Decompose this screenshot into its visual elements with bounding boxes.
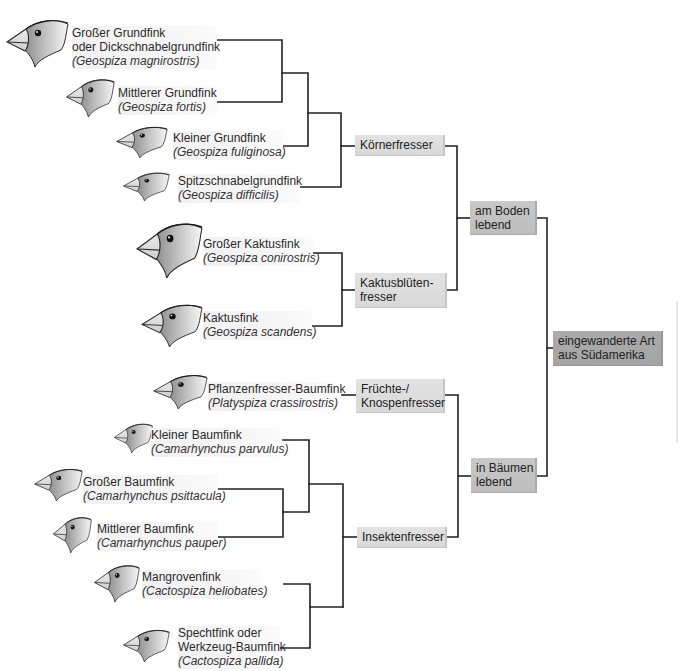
finch-head-icon <box>113 422 153 453</box>
diet-group-label: Körnerfresser <box>360 138 438 152</box>
finch-head-icon <box>65 77 115 117</box>
species-common-name: Großer Kaktusfink <box>203 237 311 251</box>
species-common-name: Großer Grundfink <box>72 26 215 40</box>
species-latin-name: (Cactospiza heliobates) <box>142 584 258 598</box>
diet-group-label: Früchte-/ <box>361 382 438 396</box>
species-label-mittlerer-baumfink: Mittlerer Baumfink (Camarhynchus pauper) <box>97 522 218 551</box>
diet-group-fruechte-knospenfresser: Früchte-/ Knospenfresser <box>356 379 445 413</box>
finch-head-icon <box>93 563 140 602</box>
diet-group-label: Kaktusblüten- <box>360 276 440 290</box>
root-label: aus Südamerika <box>558 348 656 362</box>
species-common-name: Mangrovenfink <box>142 570 258 584</box>
species-label-spitzschnabelgrundfink: Spitzschnabelgrundfink (Geospiza diffici… <box>178 174 300 203</box>
species-latin-name: (Geospiza scandens) <box>203 325 310 339</box>
finch-head-icon <box>115 125 168 158</box>
species-latin-name: (Geospiza magnirostris) <box>72 54 215 68</box>
habitat-group-label: am Boden <box>475 204 530 218</box>
species-latin-name: (Geospiza fortis) <box>118 100 215 114</box>
species-latin-name: (Camarhynchus psittacula) <box>83 489 216 503</box>
species-common-name: Kleiner Grundfink <box>173 131 281 145</box>
diet-group-kaktusbluetenfresser: Kaktusblüten- fresser <box>355 273 447 308</box>
finch-head-icon <box>140 302 203 347</box>
habitat-group-label: in Bäumen <box>476 461 530 475</box>
species-common-name: Großer Baumfink <box>83 475 216 489</box>
species-common-name: Werkzeug-Baumfink <box>178 640 278 654</box>
species-common-name: Mittlerer Baumfink <box>97 522 216 536</box>
species-label-kaktusfink: Kaktusfink (Geospiza scandens) <box>203 311 312 340</box>
species-common-name: Spechtfink oder <box>178 626 278 640</box>
species-latin-name: (Camarhynchus pauper) <box>97 536 216 550</box>
species-common-name: oder Dickschnabelgrundfink <box>72 40 215 54</box>
species-label-spechtfink: Spechtfink oder Werkzeug-Baumfink (Cacto… <box>178 626 280 669</box>
species-label-grosser-grundfink: Großer Grundfink oder Dickschnabelgrundf… <box>72 26 217 69</box>
species-common-name: Spitzschnabelgrundfink <box>178 174 298 188</box>
species-latin-name: (Geospiza difficilis) <box>178 188 298 202</box>
finch-phylogeny-diagram: Großer Grundfink oder Dickschnabelgrundf… <box>0 0 678 671</box>
species-label-mittlerer-grundfink: Mittlerer Grundfink (Geospiza fortis) <box>118 86 217 115</box>
species-common-name: Kaktusfink <box>203 311 310 325</box>
diet-group-koernerfresser: Körnerfresser <box>355 135 445 156</box>
species-common-name: Kleiner Baumfink <box>151 428 278 442</box>
species-label-grosser-kaktusfink: Großer Kaktusfink (Geospiza conirostris) <box>203 237 313 266</box>
species-latin-name: (Geospiza fuliginosa) <box>173 145 281 159</box>
finch-head-icon <box>33 467 83 501</box>
root-ancestor-box: eingewanderte Art aus Südamerika <box>553 331 663 366</box>
species-label-mangrovenfink: Mangrovenfink (Cactospiza heliobates) <box>142 570 260 599</box>
diet-group-label: Knospenfresser <box>361 396 438 410</box>
species-label-kleiner-baumfink: Kleiner Baumfink (Camarhynchus parvulus) <box>151 428 280 457</box>
species-latin-name: (Geospiza conirostris) <box>203 251 311 265</box>
diet-group-label: fresser <box>360 290 440 304</box>
diet-group-label: Insektenfresser <box>362 530 440 544</box>
diet-group-insektenfresser: Insektenfresser <box>357 527 447 548</box>
finch-head-icon <box>152 373 208 409</box>
habitat-group-label: lebend <box>475 218 530 232</box>
species-label-kleiner-grundfink: Kleiner Grundfink (Geospiza fuliginosa) <box>173 131 283 160</box>
species-latin-name: (Cactospiza pallida) <box>178 654 278 668</box>
species-latin-name: (Camarhynchus parvulus) <box>151 442 278 456</box>
finch-head-icon <box>52 515 92 553</box>
habitat-group-label: lebend <box>476 475 530 489</box>
finch-head-icon <box>5 17 69 67</box>
habitat-group-am-boden: am Boden lebend <box>470 201 537 235</box>
species-label-pflanzenfresser-baumfink: Pflanzenfresser-Baumfink (Platyspiza cra… <box>208 382 339 411</box>
finch-head-icon <box>135 220 203 278</box>
species-common-name: Pflanzenfresser-Baumfink <box>208 382 337 396</box>
root-label: eingewanderte Art <box>558 334 656 348</box>
finch-head-icon <box>122 171 170 201</box>
species-common-name: Mittlerer Grundfink <box>118 86 215 100</box>
habitat-group-in-baeumen: in Bäumen lebend <box>471 458 537 493</box>
finch-head-icon <box>122 628 170 662</box>
species-label-grosser-baumfink: Großer Baumfink (Camarhynchus psittacula… <box>83 475 218 504</box>
species-latin-name: (Platyspiza crassirostris) <box>208 396 337 410</box>
